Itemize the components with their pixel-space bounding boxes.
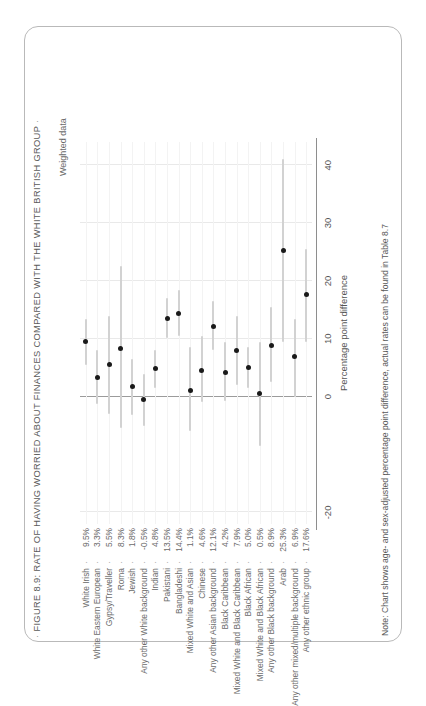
x-tick-label-10: 10: [322, 334, 333, 345]
data-point: [292, 354, 297, 359]
category-label: White Eastern European: [92, 568, 102, 659]
category-value-label: 8.9%: [266, 528, 276, 547]
category-label: Chinese: [197, 568, 207, 599]
category-dash: ·: [127, 561, 137, 564]
data-point: [281, 248, 286, 253]
category-label: Black Caribbean: [220, 568, 230, 629]
figure-note: Note: Chart shows age- and sex-adjusted …: [380, 32, 390, 636]
category-value-label: 4.6%: [197, 528, 207, 547]
category-dash: ·: [255, 561, 265, 564]
category-dash: ·: [81, 561, 91, 564]
category-value-label: 1.1%: [185, 528, 195, 547]
row-gridline: [225, 142, 226, 524]
row-gridline: [132, 142, 133, 524]
data-point: [153, 366, 158, 371]
category-value-label: 4.2%: [220, 528, 230, 547]
data-point: [95, 375, 100, 380]
row-gridline: [248, 142, 249, 524]
category-value-label: 13.5%: [162, 528, 172, 552]
row-gridline: [155, 142, 156, 524]
data-point: [130, 384, 135, 389]
category-label: Bangladeshi: [174, 568, 184, 614]
category-label: Gypsy/Traveller: [104, 568, 114, 626]
category-value-label: 7.9%: [232, 528, 242, 547]
x-tick-label-0: 0: [322, 394, 333, 399]
category-value-label: 17.6%: [301, 528, 311, 552]
category-value-label: 12.1%: [208, 528, 218, 552]
category-dash: ·: [185, 561, 195, 564]
category-label: Black African: [243, 568, 253, 616]
data-point: [304, 292, 309, 297]
data-point: [107, 362, 112, 367]
category-label: Any other Black background: [266, 568, 276, 673]
category-value-label: 3.3%: [92, 528, 102, 547]
category-label: Any other mixed/multiple background: [290, 568, 300, 706]
category-label: Mixed White and Black African: [255, 568, 265, 681]
category-dash: ·: [266, 561, 276, 564]
category-dash: ·: [116, 561, 126, 564]
x-axis-line: [316, 138, 317, 530]
category-label: Indian: [150, 568, 160, 591]
row-gridline: [190, 142, 191, 524]
figure-title-text: FIGURE 8.9: RATE OF HAVING WORRIED ABOUT…: [32, 126, 42, 632]
category-value-label: 8.3%: [116, 528, 126, 547]
row-gridline: [202, 142, 203, 524]
x-tick-label--20: -20: [322, 506, 333, 520]
category-dash: ·: [220, 561, 230, 564]
category-label: Roma: [116, 568, 126, 590]
category-label: Any other Asian background: [208, 568, 218, 673]
data-point: [176, 311, 181, 316]
category-dash: ·: [301, 561, 311, 564]
data-point: [234, 348, 239, 353]
category-dash: ·: [162, 561, 172, 564]
data-point: [199, 368, 204, 373]
category-dash: ·: [278, 561, 288, 564]
row-gridline: [144, 142, 145, 524]
data-point: [223, 370, 228, 375]
data-point: [165, 316, 170, 321]
category-value-label: 5.5%: [104, 528, 114, 547]
data-point: [269, 343, 274, 348]
category-label: White Irish: [81, 568, 91, 608]
category-label: Mixed White and Black Caribbean: [232, 568, 242, 694]
data-point: [141, 397, 146, 402]
data-point: [246, 365, 251, 370]
title-trail-dash: ·: [32, 120, 42, 123]
category-value-label: 4.8%: [150, 528, 160, 547]
gridline-x-0: [80, 396, 312, 397]
category-value-label: 25.3%: [278, 528, 288, 552]
row-gridline: [97, 142, 98, 524]
gridline-x--20: [80, 511, 312, 512]
title-lead-dash: ·: [32, 635, 42, 638]
data-point: [188, 388, 193, 393]
category-value-label: 9.5%: [81, 528, 91, 547]
category-label: Pakistani: [162, 568, 172, 602]
category-label: Jewish: [127, 568, 137, 594]
category-label: Mixed White and Asian: [185, 568, 195, 653]
category-value-label: 6.9%: [290, 528, 300, 547]
weighted-data-caption: Weighted data: [58, 118, 68, 176]
x-tick-label-30: 30: [322, 218, 333, 229]
category-value-label: -0.5%: [139, 528, 149, 550]
gridline-x-30: [80, 222, 312, 223]
category-dash: ·: [243, 561, 253, 564]
plot-area: [80, 142, 312, 524]
data-point: [83, 339, 88, 344]
x-tick-label-40: 40: [322, 160, 333, 171]
gridline-x-20: [80, 280, 312, 281]
rotated-figure-stage: · FIGURE 8.9: RATE OF HAVING WORRIED ABO…: [24, 26, 402, 642]
category-dash: ·: [92, 561, 102, 564]
category-label: Any other ethnic group: [301, 568, 311, 652]
category-value-label: 0.5%: [255, 528, 265, 547]
category-dash: ·: [197, 561, 207, 564]
category-axis-labels: White Irish·9.5%White Eastern European·3…: [80, 528, 312, 646]
gridline-x-10: [80, 338, 312, 339]
category-value-label: 1.8%: [127, 528, 137, 547]
category-label: Any other White background: [139, 568, 149, 674]
category-dash: ·: [290, 561, 300, 564]
category-label: Arab: [278, 568, 288, 586]
category-dash: ·: [104, 561, 114, 564]
figure-card: · FIGURE 8.9: RATE OF HAVING WORRIED ABO…: [24, 26, 402, 642]
category-value-label: 14.4%: [174, 528, 184, 552]
category-dash: ·: [208, 561, 218, 564]
